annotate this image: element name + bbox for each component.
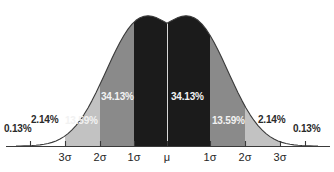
band-center-left xyxy=(134,0,167,147)
pct-label-left-0-13: 0.13% xyxy=(4,124,31,134)
pct-label-left-13-59: 13.59% xyxy=(65,116,98,126)
axis-label-3sigma-right: 3σ xyxy=(274,152,287,163)
axis-label-mean: μ xyxy=(164,152,170,163)
axis-label-2sigma-right: 2σ xyxy=(239,152,252,163)
pct-label-right-13-59: 13.59% xyxy=(212,116,245,126)
normal-distribution-figure: 0.13% 2.14% 13.59% 34.13% 34.13% 13.59% … xyxy=(0,0,334,172)
pct-label-right-2-14: 2.14% xyxy=(258,115,285,125)
axis-label-1sigma-left: 1σ xyxy=(128,152,141,163)
pct-label-left-34-13: 34.13% xyxy=(101,92,134,102)
pct-label-right-0-13: 0.13% xyxy=(293,124,320,134)
axis-label-3sigma-left: 3σ xyxy=(59,152,72,163)
bell-curve-plot xyxy=(0,0,334,172)
axis-label-1sigma-right: 1σ xyxy=(204,152,217,163)
pct-label-left-2-14: 2.14% xyxy=(31,115,58,125)
axis-label-2sigma-left: 2σ xyxy=(94,152,107,163)
band-center-right xyxy=(167,0,210,147)
pct-label-right-34-13: 34.13% xyxy=(171,92,204,102)
